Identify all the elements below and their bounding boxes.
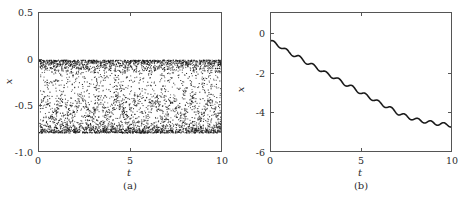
panel-b: 0 -2 -4 -6 0 5 10 t x (b) xyxy=(232,0,465,197)
ytick-mark-a-2 xyxy=(38,105,42,106)
ytick-label-b-1: -2 xyxy=(232,67,265,78)
ytick-label-a-2: -0.5 xyxy=(0,100,33,111)
ytick-mark-b-0 xyxy=(270,33,274,34)
figure-container: 0.5 0 -0.5 -1.0 0 5 10 t x (a) 0 -2 -4 -… xyxy=(0,0,465,197)
ytick-mark-b-right-1 xyxy=(448,73,452,74)
ytick-label-b-3: -6 xyxy=(232,147,265,158)
yaxis-label-b: x xyxy=(235,87,246,93)
ytick-label-a-1: 0 xyxy=(0,53,33,64)
xtick-mark-a-top-mid xyxy=(130,12,131,16)
ytick-mark-b-2 xyxy=(270,112,274,113)
xtick-label-b-0: 0 xyxy=(267,155,273,166)
line-plot-b xyxy=(271,13,452,152)
yaxis-label-a: x xyxy=(3,79,14,85)
plot-area-a xyxy=(38,12,222,152)
ytick-label-a-3: -1.0 xyxy=(0,147,33,158)
xtick-mark-a-mid xyxy=(130,148,131,152)
xaxis-label-b: t xyxy=(358,167,362,178)
plot-area-b xyxy=(270,12,452,152)
ytick-label-b-2: -4 xyxy=(232,107,265,118)
subcaption-b: (b) xyxy=(354,180,368,191)
ytick-label-b-0: 0 xyxy=(232,28,265,39)
xtick-label-a-1: 5 xyxy=(127,155,133,166)
subcaption-a: (a) xyxy=(123,180,137,191)
panel-a: 0.5 0 -0.5 -1.0 0 5 10 t x (a) xyxy=(0,0,232,197)
ytick-mark-a-1 xyxy=(38,59,42,60)
scatter-plot-a xyxy=(39,13,222,152)
xtick-mark-b-mid xyxy=(361,148,362,152)
ytick-label-a-0: 0.5 xyxy=(0,7,33,18)
xtick-label-b-2: 10 xyxy=(446,155,458,166)
ytick-mark-b-1 xyxy=(270,73,274,74)
xaxis-label-a: t xyxy=(127,167,131,178)
xtick-label-a-0: 0 xyxy=(35,155,41,166)
xtick-mark-b-top-mid xyxy=(361,12,362,16)
ytick-mark-b-right-2 xyxy=(448,112,452,113)
xtick-label-a-2: 10 xyxy=(216,155,228,166)
xtick-label-b-1: 5 xyxy=(358,155,364,166)
